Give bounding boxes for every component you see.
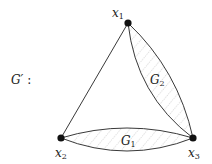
label-x3: x3 <box>188 146 200 161</box>
graph-name-label: G′: <box>11 73 31 87</box>
graph-diagram: x1 x2 x3 G2 G1 G′: <box>0 0 212 164</box>
node-x1 <box>124 19 131 26</box>
edge-x1-x2 <box>61 23 128 138</box>
node-x3 <box>189 134 196 141</box>
label-x1: x1 <box>112 6 124 21</box>
label-x2: x2 <box>55 146 67 161</box>
node-x2 <box>57 134 64 141</box>
